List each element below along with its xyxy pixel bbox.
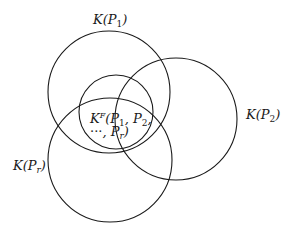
venn-diagram: K(P1) K(P2) K(Pr) KF(P1, P2, ···, Pr) — [0, 0, 290, 239]
label-k-p1-close: ) — [122, 12, 127, 27]
label-k-pr-var: P — [28, 158, 37, 173]
k-f-dots: ··· — [90, 124, 102, 139]
label-k-pr-base: K( — [13, 158, 28, 173]
k-f-sep3: , — [102, 124, 110, 139]
label-k-p1-var: P — [108, 12, 117, 27]
label-k-p1: K(P1) — [93, 13, 127, 31]
label-k-pr: K(Pr) — [13, 159, 46, 177]
label-k-p2-var: P — [261, 107, 270, 122]
k-f-close: ) — [124, 124, 129, 139]
label-k-p2-base: K( — [246, 107, 261, 122]
k-f-sep2: , — [148, 111, 152, 126]
k-f-p2: P — [133, 111, 142, 126]
label-k-p2-close: ) — [275, 107, 280, 122]
label-k-p2: K(P2) — [246, 108, 280, 126]
label-k-pr-close: ) — [41, 158, 46, 173]
label-k-f-line2: ···, Pr) — [90, 124, 129, 144]
label-k-p1-base: K( — [93, 12, 108, 27]
